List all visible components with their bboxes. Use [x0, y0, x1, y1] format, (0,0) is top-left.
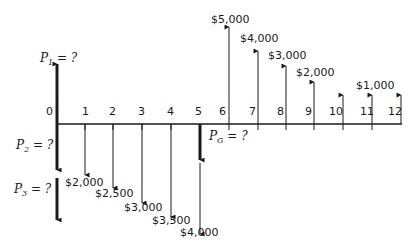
receipt-amount-11: $1,000 [356, 79, 395, 92]
receipt-amount-6: $5,000 [211, 13, 250, 26]
period-label-12: 12 [388, 105, 402, 118]
p1-label: P1 = ? [39, 51, 78, 67]
period-label-3: 3 [138, 105, 145, 118]
period-label-4: 4 [167, 105, 174, 118]
receipt-labels: $5,000 $4,000 $3,000 $2,000 $1,000 [211, 13, 395, 92]
period-label-7: 7 [249, 105, 256, 118]
period-label-5: 5 [195, 105, 202, 118]
period-label-10: 10 [329, 105, 343, 118]
period-label-0: 0 [46, 105, 53, 118]
disbursement-amount-3: $3,000 [124, 201, 163, 214]
pg-label: PG = ? [208, 129, 248, 145]
receipt-amount-8: $3,000 [268, 49, 307, 62]
p2-label: P2 = ? [15, 138, 54, 154]
period-label-9: 9 [305, 105, 312, 118]
receipt-amount-9: $2,000 [296, 66, 335, 79]
period-label-2: 2 [109, 105, 116, 118]
disbursement-amount-2: $2,500 [95, 187, 134, 200]
period-label-6: 6 [219, 105, 226, 118]
period-label-8: 8 [277, 105, 284, 118]
receipt-amount-7: $4,000 [240, 32, 279, 45]
disbursement-amount-5: $4,000 [180, 226, 219, 239]
p3-label: P3 = ? [13, 182, 52, 198]
cash-flow-diagram: 0 1 2 3 4 5 6 7 8 9 10 11 12 P1 = ? P2 =… [0, 0, 417, 251]
period-label-1: 1 [82, 105, 89, 118]
period-labels: 0 1 2 3 4 5 6 7 8 9 10 11 12 [46, 105, 402, 118]
